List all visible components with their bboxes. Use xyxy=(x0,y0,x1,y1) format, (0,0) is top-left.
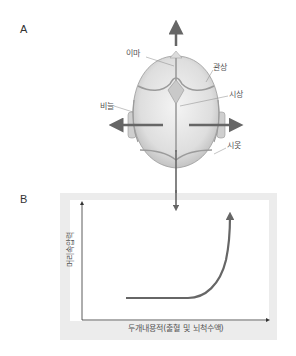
pressure-volume-chart xyxy=(0,0,296,356)
chart-plot-area xyxy=(70,200,269,321)
y-axis-label: 머리속압력 xyxy=(67,226,75,272)
x-axis-label: 두개내용적(출혈 및 뇌척수액) xyxy=(82,325,270,333)
